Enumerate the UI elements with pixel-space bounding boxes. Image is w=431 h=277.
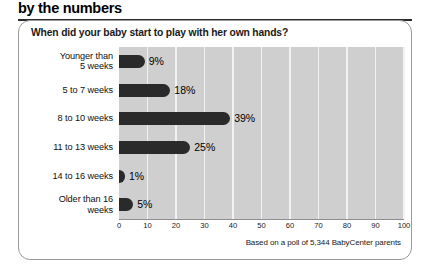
category-label: Younger than5 weeks xyxy=(19,51,113,72)
x-axis-ticks: 0102030405060708090100 xyxy=(119,221,404,235)
category-label: Older than 16weeks xyxy=(19,194,113,215)
category-axis: Younger than5 weeks5 to 7 weeks8 to 10 w… xyxy=(19,47,117,219)
chart-source-note: Based on a poll of 5,344 BabyCenter pare… xyxy=(246,238,401,247)
x-axis-line xyxy=(119,219,404,220)
bar-value-label: 25% xyxy=(194,141,215,153)
bar xyxy=(119,84,170,97)
x-tick-label: 70 xyxy=(304,221,334,230)
gridline xyxy=(289,47,290,219)
chart-plot-wrapper: Younger than5 weeks5 to 7 weeks8 to 10 w… xyxy=(19,47,413,261)
x-tick-label: 50 xyxy=(247,221,277,230)
x-tick-label: 30 xyxy=(190,221,220,230)
x-tick-label: 90 xyxy=(361,221,391,230)
chart-question-title: When did your baby start to play with he… xyxy=(31,27,288,38)
x-tick-label: 60 xyxy=(275,221,305,230)
gridline xyxy=(318,47,319,219)
page-title: by the numbers xyxy=(18,0,122,16)
gridline xyxy=(147,47,148,219)
category-label: 14 to 16 weeks xyxy=(19,171,113,182)
gridline xyxy=(375,47,376,219)
x-tick-label: 100 xyxy=(389,221,419,230)
gridline xyxy=(261,47,262,219)
x-tick-label: 0 xyxy=(104,221,134,230)
x-tick-label: 20 xyxy=(161,221,191,230)
x-tick-label: 40 xyxy=(218,221,248,230)
category-label: 5 to 7 weeks xyxy=(19,85,113,96)
header: by the numbers xyxy=(0,0,431,22)
bar-value-label: 39% xyxy=(234,112,255,124)
gridline xyxy=(175,47,176,219)
x-tick-label: 80 xyxy=(332,221,362,230)
bar-value-label: 1% xyxy=(129,170,144,182)
gridline xyxy=(346,47,347,219)
category-label: 11 to 13 weeks xyxy=(19,142,113,153)
bar xyxy=(119,55,145,68)
bar xyxy=(119,112,230,125)
bar xyxy=(119,170,125,183)
gridline xyxy=(204,47,205,219)
bar-value-label: 5% xyxy=(137,198,152,210)
bar-value-label: 9% xyxy=(149,55,164,67)
category-label: 8 to 10 weeks xyxy=(19,113,113,124)
bar xyxy=(119,198,133,211)
bar-value-label: 18% xyxy=(174,84,195,96)
gridline xyxy=(232,47,233,219)
bar xyxy=(119,141,190,154)
plot-area: 9%18%39%25%1%5% xyxy=(119,47,404,219)
x-tick-label: 10 xyxy=(133,221,163,230)
gridline xyxy=(403,47,404,219)
chart-card: When did your baby start to play with he… xyxy=(18,20,412,260)
